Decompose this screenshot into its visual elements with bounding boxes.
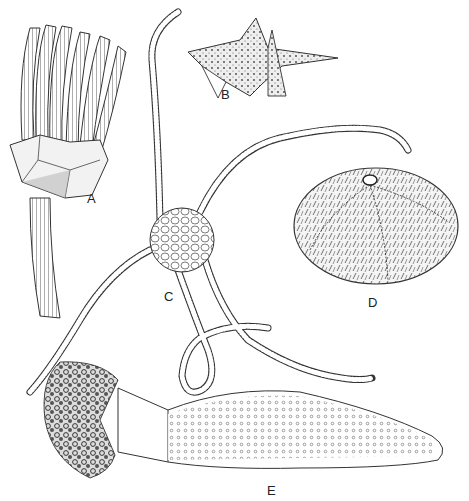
label-d: D [368, 296, 377, 309]
label-b: B [221, 88, 230, 101]
label-e: E [267, 484, 276, 497]
illustration-drawing [0, 0, 469, 501]
sea-cucumber-drawing [44, 362, 443, 478]
sea-urchin-drawing [294, 168, 458, 284]
echinoderm-illustration: A B C D E [0, 0, 469, 501]
label-c: C [164, 290, 173, 303]
crinoid-drawing [10, 25, 126, 318]
label-a: A [87, 192, 96, 205]
sea-star-drawing [188, 18, 338, 98]
